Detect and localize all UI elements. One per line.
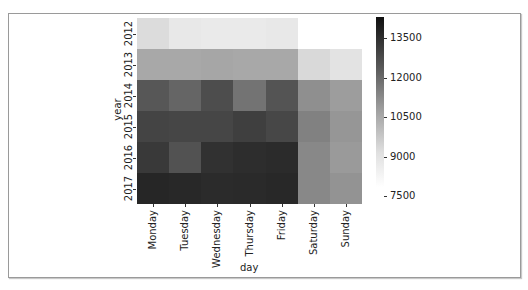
heatmap-cell [169,173,201,204]
x-tick-label: Sunday [340,210,351,280]
heatmap-cell [330,173,362,204]
heatmap-cell [298,142,330,173]
heatmap-cell [330,18,362,49]
x-tick-label: Wednesday [211,210,222,280]
x-axis-title: day [240,262,258,273]
heatmap-cell [233,80,265,111]
colorbar-tick-label: 7500 [390,191,415,201]
heatmap-cell [266,111,298,142]
heatmap-grid [137,18,362,204]
heatmap-cell [266,80,298,111]
heatmap-cell [233,111,265,142]
heatmap-cell [266,49,298,80]
heatmap-cell [201,80,233,111]
heatmap-cell [137,173,169,204]
heatmap-cell [233,49,265,80]
heatmap-cell [298,173,330,204]
heatmap-cell [266,173,298,204]
colorbar [376,17,384,187]
x-tick [346,204,347,207]
x-tick [185,204,186,207]
heatmap-cell [137,80,169,111]
colorbar-tick [384,117,387,118]
heatmap-cell [137,49,169,80]
heatmap-cell [169,18,201,49]
heatmap-cell [330,142,362,173]
colorbar-tick [384,38,387,39]
heatmap-cell [298,18,330,49]
x-tick [153,204,154,207]
colorbar-tick [384,196,387,197]
colorbar-tick-label: 13500 [390,33,422,43]
heatmap-cell [233,142,265,173]
heatmap-cell [266,142,298,173]
heatmap-cell [201,142,233,173]
y-axis-title: year [112,98,123,120]
x-tick-label: Monday [147,210,158,280]
x-tick [282,204,283,207]
y-tick-label: 2017 [123,168,134,208]
heatmap-cell [169,142,201,173]
heatmap-cell [298,49,330,80]
heatmap-cell [266,18,298,49]
heatmap-cell [201,173,233,204]
heatmap-cell [233,173,265,204]
colorbar-tick [384,157,387,158]
heatmap-cell [201,111,233,142]
x-tick [250,204,251,207]
heatmap-cell [201,18,233,49]
x-tick [314,204,315,207]
colorbar-tick-label: 10500 [390,112,422,122]
heatmap-cell [169,49,201,80]
heatmap-cell [201,49,233,80]
heatmap-cell [330,111,362,142]
colorbar-tick-label: 12000 [390,73,422,83]
heatmap-cell [233,18,265,49]
x-tick-label: Tuesday [179,210,190,280]
heatmap-cell [298,111,330,142]
colorbar-tick-label: 9000 [390,152,415,162]
x-tick-label: Saturday [308,210,319,280]
heatmap-cell [330,80,362,111]
heatmap-cell [330,49,362,80]
heatmap-cell [169,111,201,142]
heatmap-cell [169,80,201,111]
colorbar-tick [384,78,387,79]
heatmap-cell [137,142,169,173]
heatmap-cell [137,18,169,49]
heatmap-cell [137,111,169,142]
x-tick-label: Friday [276,210,287,280]
heatmap-cell [298,80,330,111]
x-tick [217,204,218,207]
